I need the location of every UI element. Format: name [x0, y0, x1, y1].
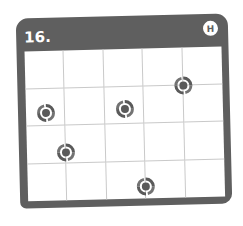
- grid-cell[interactable]: [184, 122, 224, 160]
- grid-cell[interactable]: [105, 124, 145, 162]
- spiral-icon: [135, 175, 158, 198]
- spiral-icon: [55, 141, 78, 164]
- grid-cell[interactable]: [64, 49, 104, 87]
- spiral-icon: [172, 74, 195, 97]
- grid-cell[interactable]: [25, 50, 65, 88]
- grid-cell[interactable]: [27, 163, 67, 201]
- puzzle-number: 16.: [24, 28, 51, 47]
- grid-cell[interactable]: [65, 87, 105, 125]
- grid-cell[interactable]: [144, 123, 184, 161]
- spiral-icon: [113, 98, 136, 121]
- puzzle-grid: [25, 47, 226, 202]
- puzzle-card: 16. H: [16, 13, 233, 208]
- grid-cell[interactable]: [67, 162, 107, 200]
- difficulty-badge: H: [203, 21, 218, 36]
- grid-cell[interactable]: [103, 49, 143, 87]
- grid-cell[interactable]: [185, 159, 225, 197]
- spiral-icon: [34, 101, 57, 124]
